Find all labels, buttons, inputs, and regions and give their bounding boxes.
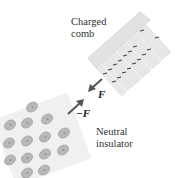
force-label-minus-F: −F (76, 107, 90, 119)
comb-label: Charged comb (71, 16, 106, 40)
insulator-label-line1: Neutral (96, 126, 133, 138)
comb-label-line1: Charged (71, 16, 106, 28)
insulator-label: Neutral insulator (96, 126, 133, 150)
insulator-label-line2: insulator (96, 138, 133, 150)
comb-label-line2: comb (71, 28, 106, 40)
force-label-F: F (98, 88, 105, 100)
